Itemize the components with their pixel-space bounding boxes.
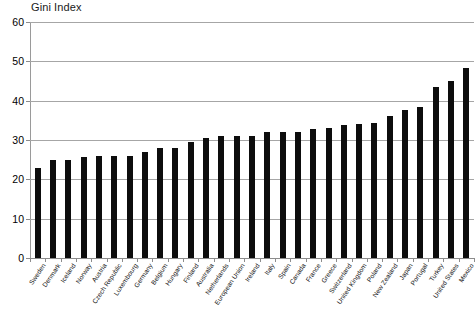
bar: [356, 124, 362, 258]
bar: [371, 123, 377, 258]
bar: [127, 156, 133, 258]
bars-layer: [30, 22, 474, 258]
bar: [50, 160, 56, 258]
bar: [448, 81, 454, 258]
bar: [310, 129, 316, 258]
bar: [280, 132, 286, 258]
y-tick-label-60: 60: [12, 16, 24, 28]
plot-area: 0102030405060: [30, 22, 474, 258]
y-tick-label-20: 20: [12, 173, 24, 185]
bar: [65, 160, 71, 258]
bar: [341, 125, 347, 258]
bar: [96, 156, 102, 258]
bar: [402, 110, 408, 258]
chart-title: Gini Index: [31, 1, 82, 13]
bar: [142, 152, 148, 258]
bar: [234, 136, 240, 258]
bar: [264, 132, 270, 258]
bar: [203, 138, 209, 258]
bar: [218, 136, 224, 258]
y-tick-label-10: 10: [12, 213, 24, 225]
bar: [111, 156, 117, 258]
bar: [417, 107, 423, 258]
bar: [188, 142, 194, 258]
y-tick-label-30: 30: [12, 134, 24, 146]
bar: [433, 87, 439, 258]
x-axis-labels: SwedenDenmarkIcelandNorwayAustriaCzech R…: [30, 262, 474, 328]
x-tick-label: Italy: [263, 262, 276, 276]
bar: [387, 116, 393, 258]
bar: [326, 128, 332, 258]
gini-index-bar-chart: Gini Index 0102030405060 SwedenDenmarkIc…: [0, 0, 475, 328]
y-tick-label-50: 50: [12, 55, 24, 67]
y-tick-label-40: 40: [12, 95, 24, 107]
bar: [249, 136, 255, 258]
bar: [81, 157, 87, 258]
bar: [157, 148, 163, 258]
bar: [172, 148, 178, 258]
bar: [35, 168, 41, 258]
bar: [463, 68, 469, 258]
bar: [295, 132, 301, 258]
y-tick-label-0: 0: [18, 252, 24, 264]
